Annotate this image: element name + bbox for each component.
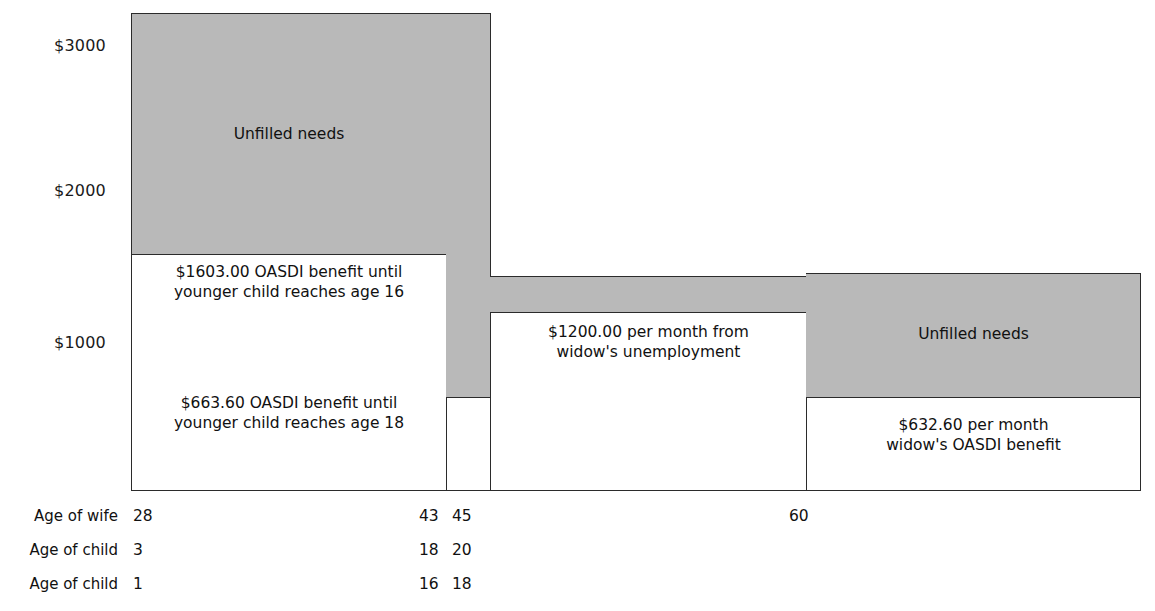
x-axis-tick-45 (490, 480, 491, 491)
age-of-wife-value-28: 28 (133, 507, 153, 525)
oasdi-benefit-663-label: $663.60 OASDI benefit until younger chil… (141, 393, 437, 433)
y-axis-tick-2000: $2000 (10, 181, 106, 200)
chart-canvas: $3000 $2000 $1000 Unfilled needs $1603.0… (0, 0, 1155, 611)
unfilled-needs-label-left: Unfilled needs (141, 124, 437, 144)
unfilled-needs-connector-column (446, 13, 491, 398)
x-axis-row-label-age-of-child-younger: Age of child (8, 575, 118, 593)
y-axis-tick-1000: $1000 (10, 333, 106, 352)
widow-unemployment-1200-label: $1200.00 per month from widow's unemploy… (500, 322, 797, 362)
age-of-wife-value-60: 60 (789, 507, 809, 525)
age-of-child-younger-value-16: 16 (419, 575, 439, 593)
age-of-child-older-value-3: 3 (133, 541, 143, 559)
x-axis-row-label-age-of-wife: Age of wife (8, 507, 118, 525)
x-axis-line (131, 490, 1141, 491)
x-axis-tick-end (1140, 480, 1141, 491)
age-of-child-younger-value-18: 18 (452, 575, 472, 593)
oasdi-benefit-1603-label: $1603.00 OASDI benefit until younger chi… (141, 262, 437, 302)
x-axis-tick-60 (806, 480, 807, 491)
x-axis-row-label-age-of-child-older: Age of child (8, 541, 118, 559)
age-of-child-older-value-20: 20 (452, 541, 472, 559)
widow-oasdi-632-label: $632.60 per month widow's OASDI benefit (816, 415, 1131, 455)
age-of-wife-value-45: 45 (452, 507, 472, 525)
age-of-wife-value-43: 43 (419, 507, 439, 525)
unfilled-needs-label-right: Unfilled needs (816, 324, 1131, 344)
x-axis-tick-28 (131, 480, 132, 491)
unfilled-needs-block-period-2 (490, 276, 807, 313)
age-of-child-younger-value-1: 1 (133, 575, 143, 593)
y-axis-tick-3000: $3000 (10, 36, 106, 55)
age-of-child-older-value-18: 18 (419, 541, 439, 559)
